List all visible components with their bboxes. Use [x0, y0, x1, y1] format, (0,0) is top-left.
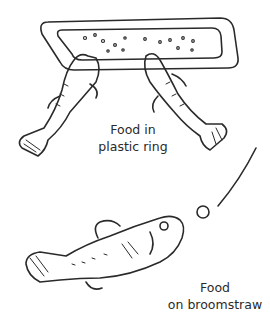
caption-food-on-broomstraw: Food on broomstraw	[160, 279, 270, 313]
plastic-ring	[41, 18, 238, 70]
feeding-drawing	[0, 0, 270, 326]
caption-line: plastic ring	[88, 138, 178, 155]
caption-line: Food in	[88, 121, 178, 138]
illustration: Food in plastic ring Food on broomstraw	[0, 0, 270, 326]
broomstraw	[218, 148, 256, 206]
caption-line: Food	[160, 279, 270, 296]
caption-food-in-plastic-ring: Food in plastic ring	[88, 121, 178, 155]
food-bead	[197, 206, 209, 218]
caption-line: on broomstraw	[160, 296, 270, 313]
